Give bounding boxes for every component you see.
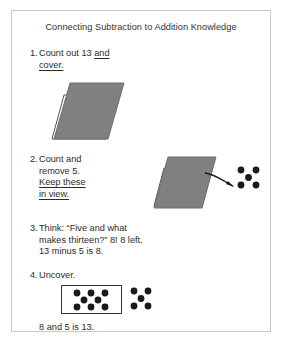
- step-2-number: 2.: [30, 154, 38, 166]
- worksheet-figure: Connecting Subtraction to Addition Knowl…: [11, 10, 271, 332]
- step-1-text-plain: Count out 13: [39, 48, 94, 58]
- dice-five-dots-icon: [236, 165, 264, 193]
- dot: [238, 167, 245, 174]
- step-3-line-1: Think: “Five and what: [39, 223, 127, 235]
- step-3-line-3: 13 minus 5 is 8.: [39, 246, 103, 258]
- eight-dots-icon: [61, 285, 122, 314]
- dot: [102, 290, 109, 297]
- step-1-line-1: Count out 13 and: [39, 48, 110, 60]
- step-1-line-2: cover.: [39, 60, 64, 72]
- dot: [95, 297, 102, 304]
- figure-title: Connecting Subtraction to Addition Knowl…: [12, 22, 270, 32]
- step-4-line-1: Uncover.: [39, 270, 75, 282]
- dot: [74, 290, 81, 297]
- dot: [102, 304, 109, 311]
- step-2-line-3: Keep these: [39, 177, 86, 189]
- step-2-line-4: in view.: [39, 189, 69, 201]
- step-1-number: 1.: [30, 48, 38, 60]
- step-4-number: 4.: [30, 270, 38, 282]
- dot: [131, 288, 138, 295]
- step-2-line-2: remove 5.: [39, 166, 80, 178]
- gray-cover-shape: [54, 83, 124, 139]
- dot: [253, 182, 260, 189]
- dot: [145, 288, 152, 295]
- step-2-removed-dots: [236, 165, 264, 193]
- dice-five-dots-icon-2: [129, 287, 157, 313]
- dot: [238, 182, 245, 189]
- step-2-line-1: Count and: [39, 154, 81, 166]
- covered-counters-icon: [48, 81, 148, 149]
- dot: [131, 303, 138, 310]
- step-3-line-2: makes thirteen?” 8! 8 left.: [39, 235, 143, 247]
- step-1-underlined-and: and: [94, 48, 109, 58]
- dot: [88, 290, 95, 297]
- dot: [81, 297, 88, 304]
- dot: [253, 167, 260, 174]
- dot: [74, 304, 81, 311]
- dot: [145, 303, 152, 310]
- step-4-loose-dots: [129, 287, 157, 313]
- closing-sentence: 8 and 5 is 13.: [39, 322, 94, 334]
- dot: [138, 295, 145, 302]
- dot: [88, 304, 95, 311]
- step-3-number: 3.: [30, 223, 38, 235]
- step-4-boxed-dots: [61, 285, 122, 314]
- dot: [245, 174, 252, 181]
